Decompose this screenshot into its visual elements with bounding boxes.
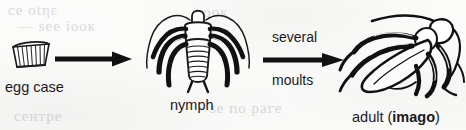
ghost-text: ѕе по раге	[210, 100, 282, 117]
ghost-text: — ѕее іоок	[18, 18, 96, 35]
arrow-label-several: several	[272, 30, 317, 44]
stage-label-adult: adult (imago)	[352, 110, 440, 125]
ootheca-egg-case-drawing	[4, 38, 56, 72]
adult-label-emphasis: imago	[392, 109, 435, 125]
adult-label-suffix: )	[435, 109, 440, 125]
stage-label-nymph: nymph	[170, 98, 214, 113]
ghost-text: сентре	[14, 108, 62, 125]
arrow-egg-to-nymph	[54, 48, 136, 70]
right-arrow-icon	[55, 52, 132, 67]
adult-cockroach-drawing	[332, 4, 466, 100]
diagram-canvas: се οtηε — ѕее іоок тоок ѕе по раге сентр…	[0, 0, 466, 130]
adult-label-prefix: adult (	[352, 109, 392, 125]
arrow-label-moults: moults	[272, 73, 313, 87]
cockroach-nymph-drawing	[140, 2, 256, 96]
ghost-text: се οtηε	[8, 2, 58, 19]
stage-label-egg-case: egg case	[5, 80, 64, 95]
